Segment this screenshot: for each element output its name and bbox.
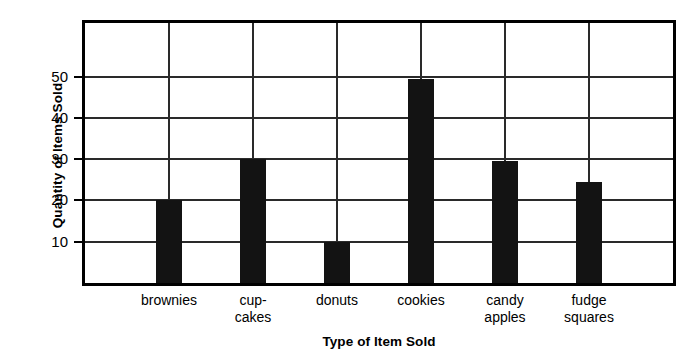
- y-axis-tick-label-50: 50: [34, 69, 68, 84]
- y-axis-tick-label-20: 20: [34, 192, 68, 207]
- y-axis-tick-mark: [74, 158, 82, 160]
- y-axis-tick-label-10: 10: [34, 234, 68, 249]
- y-axis-tick-mark: [74, 76, 82, 78]
- x-axis-title: Type of Item Sold: [82, 334, 676, 349]
- y-axis-tick-mark: [74, 117, 82, 119]
- bar-cookies: [408, 79, 434, 283]
- y-axis-tick-mark: [74, 241, 82, 243]
- bar-chart-figure: Quantity of Items Sold 5040302010 browni…: [0, 0, 695, 364]
- gridline-horizontal: [85, 76, 673, 78]
- y-axis-tick-mark: [74, 199, 82, 201]
- bar-fudge-squares: [576, 182, 602, 283]
- bar-cupcakes: [240, 159, 266, 283]
- bar-donuts: [324, 242, 350, 283]
- gridline-horizontal: [85, 158, 673, 160]
- gridline-horizontal: [85, 117, 673, 119]
- plot-inner: [85, 23, 673, 283]
- plot-area: [82, 20, 676, 286]
- y-axis-tick-label-40: 40: [34, 110, 68, 125]
- bar-candy-apples: [492, 161, 518, 283]
- y-axis-tick-label-30: 30: [34, 151, 68, 166]
- bar-brownies: [156, 200, 182, 283]
- x-axis-tick-label-fudge-squares: fudge squares: [539, 292, 639, 326]
